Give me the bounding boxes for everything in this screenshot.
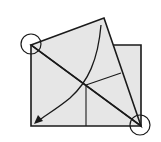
origami-diagram [0,0,161,142]
